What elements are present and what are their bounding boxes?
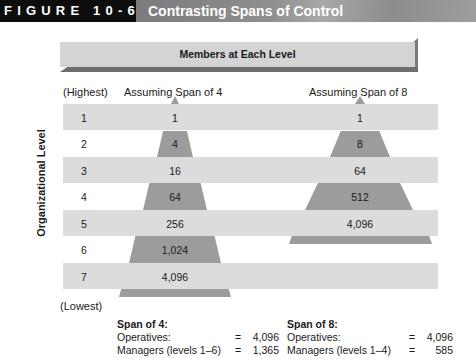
span8-value: 4,096 [325,218,395,230]
equals-sign: = [409,331,419,344]
span4-value: 4,096 [140,271,210,283]
span4-managers-row: Managers (levels 1–6) = 1,365 [117,344,279,357]
y-axis-label: Organizational Level [35,129,47,237]
span8-summary-title: Span of 8: [287,318,453,331]
equals-sign: = [235,344,245,357]
level-number: 3 [78,165,90,177]
span8-summary: Span of 8: Operatives: = 4,096 Managers … [287,318,453,357]
span8-value: 8 [325,138,395,150]
span8-managers-row: Managers (levels 1–4) = 585 [287,344,453,357]
managers-label: Managers (levels 1–4) [287,344,409,357]
span8-operatives-row: Operatives: = 4,096 [287,331,453,344]
equals-sign: = [409,344,419,357]
level-number: 2 [78,138,90,150]
span4-value: 1,024 [140,244,210,256]
equals-sign: = [235,331,245,344]
span4-value: 16 [140,165,210,177]
figure-title: Contrasting Spans of Control [136,0,476,22]
managers-value: 585 [419,344,453,357]
operatives-value: 4,096 [419,331,453,344]
banner-bevel-bottom [60,67,418,72]
span4-value: 4 [140,138,210,150]
span8-base [289,236,432,244]
span8-header: Assuming Span of 8 [309,86,407,98]
span4-summary: Span of 4: Operatives: = 4,096 Managers … [117,318,279,357]
span8-value: 512 [325,191,395,203]
level-number: 1 [78,112,90,124]
span4-base [119,289,231,297]
managers-value: 1,365 [245,344,279,357]
level-number: 6 [78,244,90,256]
span4-header: Assuming Span of 4 [124,86,222,98]
level-number: 7 [78,271,90,283]
level-band-7 [63,263,438,289]
level-number: 5 [78,218,90,230]
highest-label: (Highest) [63,86,108,98]
span4-value: 1 [140,112,210,124]
banner-title: Members at Each Level [60,42,415,67]
span4-operatives-row: Operatives: = 4,096 [117,331,279,344]
span4-value: 256 [140,218,210,230]
figure-label: FIGURE 10-6 [0,0,136,22]
span4-value: 64 [140,191,210,203]
managers-label: Managers (levels 1–6) [117,344,235,357]
span4-summary-title: Span of 4: [117,318,279,331]
level-number: 4 [78,191,90,203]
operatives-value: 4,096 [245,331,279,344]
operatives-label: Operatives: [287,331,409,344]
span8-value: 1 [325,112,395,124]
span8-value: 64 [325,165,395,177]
lowest-label: (Lowest) [60,300,102,312]
operatives-label: Operatives: [117,331,235,344]
